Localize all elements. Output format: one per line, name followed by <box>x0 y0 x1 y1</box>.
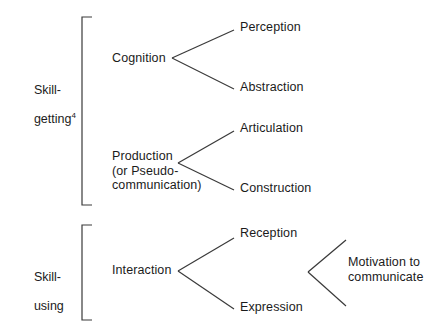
node-production: Production (or Pseudo- communication) <box>112 149 202 193</box>
group-label-skill-using-line1: Skill- <box>34 270 61 284</box>
node-construction: Construction <box>240 181 311 196</box>
footnote-marker: 4 <box>71 110 75 119</box>
node-expression: Expression <box>240 300 303 315</box>
group-label-skill-getting-line1: Skill- <box>34 83 61 97</box>
node-cognition: Cognition <box>112 51 166 66</box>
node-abstraction: Abstraction <box>240 80 304 95</box>
branch-interaction <box>178 238 234 309</box>
node-reception: Reception <box>240 226 297 241</box>
diagram-canvas: Skill- getting4 Skill- using Cognition P… <box>0 0 445 332</box>
node-perception: Perception <box>240 20 301 35</box>
branch-motivation <box>308 240 346 306</box>
group-label-skill-using-line2: using <box>34 299 64 313</box>
node-motivation-to-communicate: Motivation to communicate <box>348 255 423 284</box>
group-label-skill-getting-line2: getting <box>34 112 72 126</box>
bracket-skill-getting <box>82 17 92 205</box>
group-label-skill-using: Skill- using <box>20 255 64 328</box>
node-articulation: Articulation <box>240 121 303 136</box>
group-label-skill-getting: Skill- getting4 <box>20 68 76 141</box>
bracket-skill-using <box>82 225 92 320</box>
branch-cognition <box>172 30 234 89</box>
node-interaction: Interaction <box>112 263 171 278</box>
